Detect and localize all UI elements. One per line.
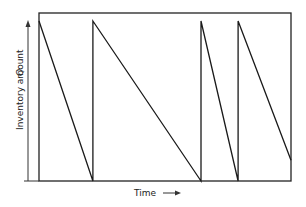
x-axis-arrow [163, 191, 181, 196]
inventory-series-line [39, 21, 291, 181]
inventory-sawtooth-chart: Inventory amount Q Time [0, 0, 306, 207]
x-axis-label: Time [133, 188, 156, 198]
y-marker-q-label: Q [15, 69, 25, 76]
y-axis-arrow [24, 20, 39, 181]
plot-frame [39, 13, 291, 181]
y-axis-label: Inventory amount [15, 49, 25, 130]
